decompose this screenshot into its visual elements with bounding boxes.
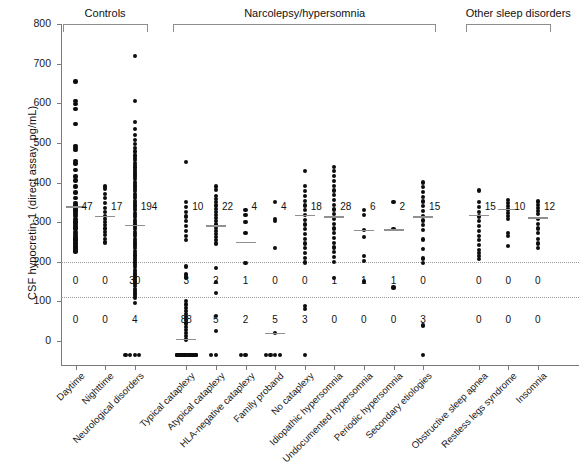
y-tick-600: 600 <box>0 103 57 104</box>
data-point <box>184 238 188 242</box>
data-point <box>123 353 127 357</box>
data-point <box>477 243 481 247</box>
data-point <box>303 241 307 245</box>
data-point <box>214 194 218 198</box>
count-label: 0 <box>535 314 541 325</box>
data-point <box>243 261 247 265</box>
data-point <box>362 254 366 258</box>
data-point <box>184 302 188 306</box>
data-point <box>506 244 510 248</box>
data-point <box>73 184 77 188</box>
data-point <box>303 353 307 357</box>
data-point <box>73 201 77 205</box>
mean-marker <box>176 339 196 340</box>
y-tick-label: 700 <box>25 58 51 69</box>
x-tick-mark <box>275 366 276 370</box>
data-point <box>421 185 425 189</box>
data-point <box>421 261 425 265</box>
data-point <box>239 353 243 357</box>
x-tick-mark <box>334 366 335 370</box>
count-label: 15 <box>485 201 496 212</box>
count-label: 1 <box>361 274 367 285</box>
data-point <box>73 159 77 163</box>
count-label: 5 <box>272 314 278 325</box>
data-point <box>177 353 181 357</box>
count-label: 2 <box>243 314 249 325</box>
data-point <box>214 291 218 295</box>
data-point <box>332 231 336 235</box>
x-axis-line <box>61 365 579 366</box>
data-point <box>332 188 336 192</box>
data-point <box>332 250 336 254</box>
y-tick-mark <box>57 183 61 184</box>
data-point <box>73 174 77 178</box>
count-label: 22 <box>222 201 233 212</box>
data-point <box>421 247 425 251</box>
data-point <box>421 190 425 194</box>
data-point <box>536 237 540 241</box>
data-point <box>421 223 425 227</box>
data-point <box>243 220 247 224</box>
data-point <box>477 224 481 228</box>
data-point <box>73 144 77 148</box>
data-point <box>332 165 336 169</box>
count-label: 5 <box>213 314 219 325</box>
data-point <box>133 301 137 305</box>
data-point <box>133 120 137 124</box>
count-label: 17 <box>111 201 122 212</box>
y-tick-label: 400 <box>25 177 51 188</box>
mean-marker <box>384 229 404 230</box>
data-point <box>184 219 188 223</box>
data-point <box>332 184 336 188</box>
data-point <box>273 353 277 357</box>
data-point <box>133 146 137 150</box>
data-point <box>391 200 395 204</box>
data-point <box>421 180 425 184</box>
y-tick-400: 400 <box>0 183 57 184</box>
count-label: 0 <box>332 314 338 325</box>
data-point <box>362 208 366 212</box>
count-label: 0 <box>73 314 79 325</box>
data-point <box>477 248 481 252</box>
data-point <box>421 195 425 199</box>
data-point <box>243 208 247 212</box>
count-label: 2 <box>213 274 219 285</box>
data-point <box>182 353 186 357</box>
data-point <box>73 99 77 103</box>
data-point <box>184 229 188 233</box>
data-point <box>214 329 218 333</box>
data-point <box>303 227 307 231</box>
data-point <box>184 224 188 228</box>
count-label: 0 <box>272 274 278 285</box>
count-label: 194 <box>141 201 158 212</box>
count-label: 0 <box>361 314 367 325</box>
data-point <box>103 184 107 188</box>
data-point <box>536 246 540 250</box>
data-point <box>133 99 137 103</box>
count-label: 4 <box>281 201 287 212</box>
data-point <box>243 353 247 357</box>
mean-marker <box>265 333 285 334</box>
data-point <box>243 213 247 217</box>
group-label: Narcolepsy/hypersomnia <box>173 7 436 19</box>
y-tick-700: 700 <box>0 64 57 65</box>
data-point <box>477 188 481 192</box>
data-point <box>128 353 132 357</box>
data-point <box>184 210 188 214</box>
data-point <box>264 353 268 357</box>
data-point <box>73 79 77 83</box>
data-point <box>184 160 188 164</box>
data-point <box>332 241 336 245</box>
data-point <box>103 237 107 241</box>
y-tick-mark <box>57 103 61 104</box>
mean-marker <box>354 230 374 231</box>
x-tick-mark <box>246 366 247 370</box>
data-point <box>303 194 307 198</box>
y-tick-label: 500 <box>25 137 51 148</box>
data-point <box>332 207 336 211</box>
data-point <box>303 251 307 255</box>
data-point <box>421 228 425 232</box>
count-label: 0 <box>506 314 512 325</box>
data-point <box>421 209 425 213</box>
data-point <box>103 196 107 200</box>
